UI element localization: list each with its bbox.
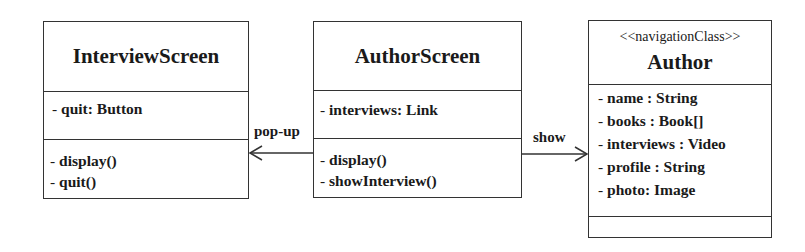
class-author[interactable]: <<navigationClass>> Author - name : Stri… bbox=[588, 20, 772, 238]
method: - quit() bbox=[50, 173, 96, 191]
attribute: - interviews : Video bbox=[598, 135, 726, 153]
stereotype: <<navigationClass>> bbox=[589, 29, 771, 45]
class-name-section: InterviewScreen bbox=[44, 22, 248, 92]
attribute: - quit: Button bbox=[52, 100, 142, 118]
attribute: - books : Book[] bbox=[598, 112, 704, 130]
class-name: InterviewScreen bbox=[44, 44, 248, 69]
methods-section: - display() - quit() bbox=[44, 139, 248, 198]
class-name: Author bbox=[589, 50, 771, 75]
class-name-section: <<navigationClass>> Author bbox=[589, 21, 771, 85]
attributes-section: - quit: Button bbox=[44, 91, 248, 140]
class-name: AuthorScreen bbox=[314, 44, 521, 69]
class-interview-screen[interactable]: InterviewScreen - quit: Button - display… bbox=[43, 21, 249, 199]
attributes-section: - interviews: Link bbox=[314, 90, 521, 139]
attribute: - photo: Image bbox=[598, 181, 695, 199]
methods-section: - display() - showInterview() bbox=[314, 138, 521, 197]
method: - showInterview() bbox=[320, 172, 437, 190]
methods-section bbox=[589, 216, 771, 236]
class-name-section: AuthorScreen bbox=[314, 22, 521, 91]
show-arrow bbox=[521, 147, 587, 161]
attribute: - profile : String bbox=[598, 158, 705, 176]
association-label-show: show bbox=[533, 129, 566, 146]
association-label-pop-up: pop-up bbox=[254, 123, 300, 140]
attribute: - interviews: Link bbox=[320, 101, 438, 119]
attributes-section: - name : String - books : Book[] - inter… bbox=[589, 84, 771, 217]
class-author-screen[interactable]: AuthorScreen - interviews: Link - displa… bbox=[313, 21, 522, 198]
method: - display() bbox=[50, 152, 117, 170]
attribute: - name : String bbox=[598, 89, 697, 107]
pop-up-arrow bbox=[250, 146, 313, 160]
method: - display() bbox=[320, 151, 387, 169]
